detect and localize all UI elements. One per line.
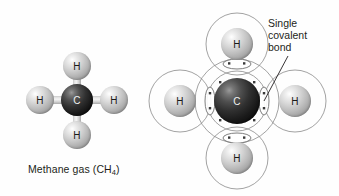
electron-bottom-left	[228, 136, 230, 138]
bond-overlap-right	[259, 87, 269, 115]
annotation-line-2: covalent	[268, 29, 307, 41]
model-carbon-atom: C	[61, 84, 93, 116]
methane-caption-suffix: )	[116, 163, 120, 175]
electron-carbon-sw	[219, 119, 221, 121]
electron-top-left	[228, 62, 230, 64]
model-hydrogen-bottom: H	[63, 121, 91, 149]
model-carbon-atom-label: C	[61, 84, 93, 116]
model-hydrogen-top: H	[63, 52, 91, 80]
model-hydrogen-top-label: H	[63, 52, 91, 80]
model-hydrogen-right-label: H	[100, 86, 128, 114]
shell-hydrogen-bottom-label: H	[221, 142, 253, 174]
methane-caption-text: Methane gas (CH	[28, 163, 112, 175]
electron-right-upper	[263, 92, 265, 94]
shell-hydrogen-right-atom: H	[279, 85, 311, 117]
bond-overlap-top	[223, 59, 251, 69]
annotation-line-1: Single	[268, 17, 307, 29]
electron-right-lower	[263, 107, 265, 109]
methane-figure: H H H H C Methane gas (CH4)	[0, 0, 339, 196]
electron-top-right	[243, 62, 245, 64]
shell-carbon-atom: C	[214, 78, 260, 124]
electron-carbon-ne	[253, 81, 255, 83]
model-hydrogen-left-label: H	[26, 86, 54, 114]
electron-carbon-se	[253, 119, 255, 121]
methane-caption-subscript: 4	[112, 168, 116, 177]
model-hydrogen-bottom-label: H	[63, 121, 91, 149]
electron-left-lower	[209, 107, 211, 109]
shell-hydrogen-top-atom: H	[221, 28, 253, 60]
model-hydrogen-left: H	[26, 86, 54, 114]
annotation-line-3: bond	[268, 41, 307, 53]
shell-hydrogen-right-label: H	[279, 85, 311, 117]
shell-carbon-atom-label: C	[214, 78, 260, 124]
model-hydrogen-right: H	[100, 86, 128, 114]
shell-hydrogen-bottom-atom: H	[221, 142, 253, 174]
shell-hydrogen-left-label: H	[164, 85, 196, 117]
electron-bottom-right	[243, 136, 245, 138]
shell-hydrogen-top-label: H	[221, 28, 253, 60]
covalent-bond-annotation: Single covalent bond	[268, 17, 307, 54]
shell-hydrogen-left-atom: H	[164, 85, 196, 117]
methane-caption: Methane gas (CH4)	[28, 163, 120, 175]
electron-left-upper	[209, 92, 211, 94]
